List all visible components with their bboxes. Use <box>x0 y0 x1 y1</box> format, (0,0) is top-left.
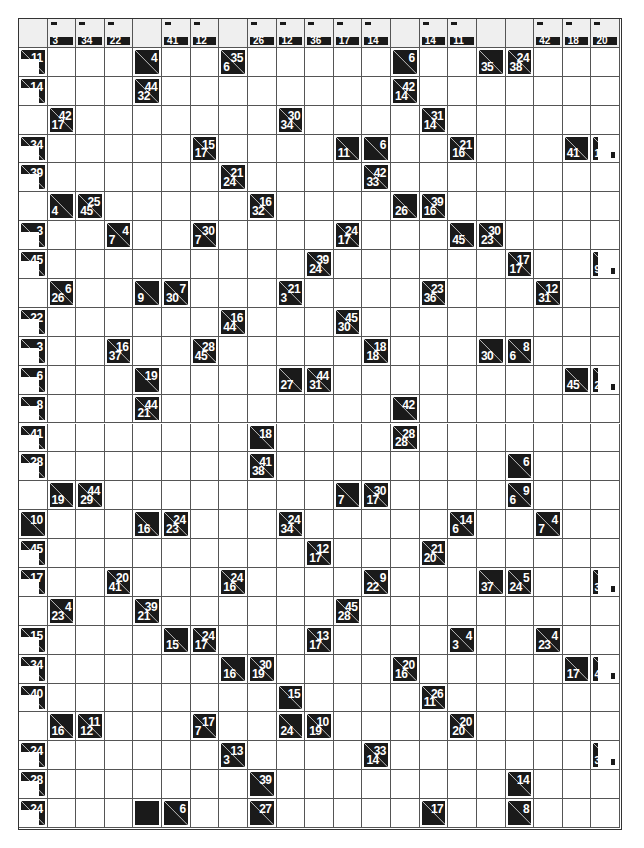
entry-cell[interactable] <box>105 424 134 453</box>
entry-cell[interactable] <box>420 135 449 164</box>
entry-cell[interactable] <box>105 712 134 741</box>
entry-cell[interactable] <box>391 250 420 279</box>
entry-cell[interactable] <box>248 106 277 135</box>
entry-cell[interactable] <box>477 424 506 453</box>
entry-cell[interactable] <box>563 192 592 221</box>
entry-cell[interactable] <box>105 279 134 308</box>
entry-cell[interactable] <box>305 452 334 481</box>
entry-cell[interactable] <box>48 626 77 655</box>
entry-cell[interactable] <box>162 684 191 713</box>
entry-cell[interactable] <box>277 221 306 250</box>
entry-cell[interactable] <box>133 163 162 192</box>
entry-cell[interactable] <box>305 77 334 106</box>
entry-cell[interactable] <box>105 77 134 106</box>
entry-cell[interactable] <box>219 799 248 828</box>
entry-cell[interactable] <box>448 568 477 597</box>
entry-cell[interactable] <box>534 366 563 395</box>
entry-cell[interactable] <box>162 424 191 453</box>
entry-cell[interactable] <box>391 568 420 597</box>
entry-cell[interactable] <box>277 770 306 799</box>
entry-cell[interactable] <box>591 424 620 453</box>
entry-cell[interactable] <box>448 308 477 337</box>
entry-cell[interactable] <box>477 452 506 481</box>
entry-cell[interactable] <box>277 741 306 770</box>
entry-cell[interactable] <box>477 135 506 164</box>
entry-cell[interactable] <box>534 770 563 799</box>
entry-cell[interactable] <box>506 712 535 741</box>
entry-cell[interactable] <box>477 770 506 799</box>
entry-cell[interactable] <box>191 250 220 279</box>
entry-cell[interactable] <box>248 597 277 626</box>
entry-cell[interactable] <box>248 712 277 741</box>
entry-cell[interactable] <box>162 221 191 250</box>
entry-cell[interactable] <box>76 135 105 164</box>
entry-cell[interactable] <box>105 192 134 221</box>
entry-cell[interactable] <box>248 250 277 279</box>
entry-cell[interactable] <box>391 279 420 308</box>
entry-cell[interactable] <box>391 510 420 539</box>
entry-cell[interactable] <box>219 135 248 164</box>
entry-cell[interactable] <box>563 48 592 77</box>
entry-cell[interactable] <box>248 279 277 308</box>
entry-cell[interactable] <box>362 106 391 135</box>
entry-cell[interactable] <box>305 279 334 308</box>
entry-cell[interactable] <box>391 741 420 770</box>
entry-cell[interactable] <box>448 424 477 453</box>
entry-cell[interactable] <box>76 799 105 828</box>
entry-cell[interactable] <box>420 510 449 539</box>
entry-cell[interactable] <box>420 221 449 250</box>
entry-cell[interactable] <box>563 308 592 337</box>
entry-cell[interactable] <box>591 221 620 250</box>
entry-cell[interactable] <box>420 163 449 192</box>
entry-cell[interactable] <box>76 77 105 106</box>
entry-cell[interactable] <box>48 395 77 424</box>
entry-cell[interactable] <box>448 337 477 366</box>
entry-cell[interactable] <box>133 250 162 279</box>
entry-cell[interactable] <box>48 655 77 684</box>
entry-cell[interactable] <box>591 48 620 77</box>
entry-cell[interactable] <box>305 424 334 453</box>
entry-cell[interactable] <box>534 568 563 597</box>
entry-cell[interactable] <box>191 308 220 337</box>
entry-cell[interactable] <box>563 452 592 481</box>
entry-cell[interactable] <box>162 568 191 597</box>
entry-cell[interactable] <box>563 741 592 770</box>
entry-cell[interactable] <box>506 106 535 135</box>
entry-cell[interactable] <box>448 192 477 221</box>
entry-cell[interactable] <box>362 655 391 684</box>
entry-cell[interactable] <box>76 48 105 77</box>
entry-cell[interactable] <box>534 192 563 221</box>
entry-cell[interactable] <box>48 452 77 481</box>
entry-cell[interactable] <box>76 106 105 135</box>
entry-cell[interactable] <box>391 308 420 337</box>
entry-cell[interactable] <box>506 597 535 626</box>
entry-cell[interactable] <box>591 192 620 221</box>
entry-cell[interactable] <box>277 424 306 453</box>
entry-cell[interactable] <box>477 366 506 395</box>
entry-cell[interactable] <box>277 655 306 684</box>
entry-cell[interactable] <box>305 308 334 337</box>
entry-cell[interactable] <box>105 799 134 828</box>
entry-cell[interactable] <box>162 597 191 626</box>
entry-cell[interactable] <box>105 510 134 539</box>
entry-cell[interactable] <box>105 481 134 510</box>
entry-cell[interactable] <box>76 221 105 250</box>
entry-cell[interactable] <box>506 510 535 539</box>
entry-cell[interactable] <box>277 135 306 164</box>
entry-cell[interactable] <box>76 337 105 366</box>
entry-cell[interactable] <box>362 539 391 568</box>
entry-cell[interactable] <box>591 770 620 799</box>
entry-cell[interactable] <box>305 597 334 626</box>
entry-cell[interactable] <box>162 741 191 770</box>
entry-cell[interactable] <box>563 799 592 828</box>
entry-cell[interactable] <box>248 568 277 597</box>
entry-cell[interactable] <box>506 655 535 684</box>
entry-cell[interactable] <box>133 712 162 741</box>
entry-cell[interactable] <box>76 279 105 308</box>
entry-cell[interactable] <box>277 192 306 221</box>
entry-cell[interactable] <box>506 135 535 164</box>
entry-cell[interactable] <box>219 192 248 221</box>
entry-cell[interactable] <box>305 568 334 597</box>
entry-cell[interactable] <box>563 510 592 539</box>
entry-cell[interactable] <box>305 741 334 770</box>
